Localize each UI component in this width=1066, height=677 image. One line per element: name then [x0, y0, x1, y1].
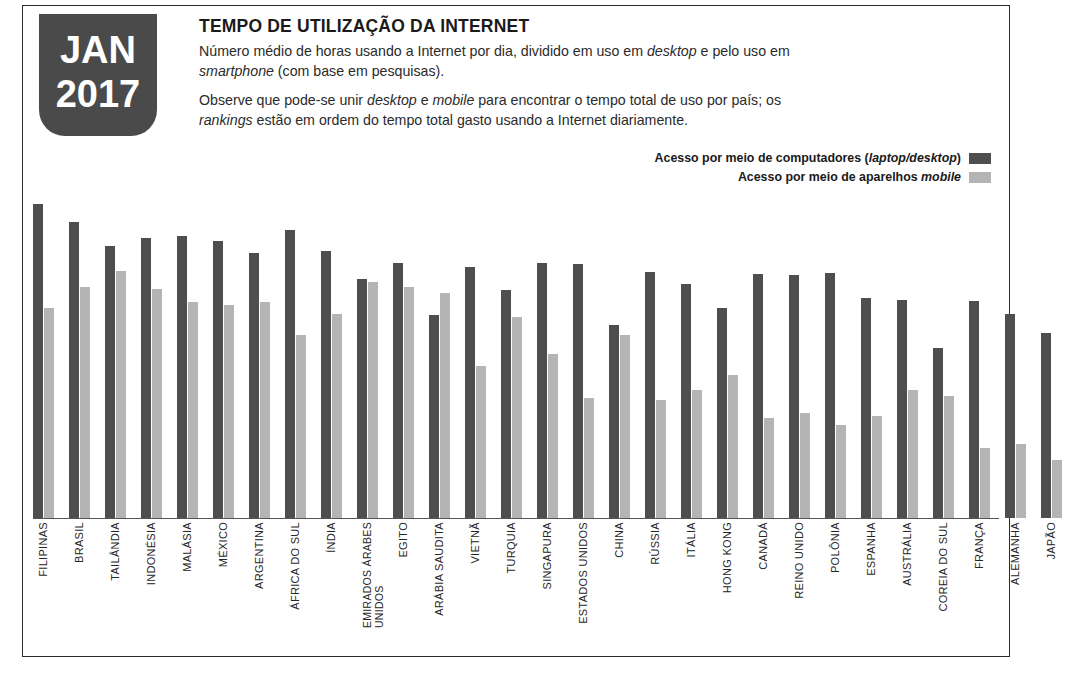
chart-legend: Acesso por meio de computadores (laptop/…	[655, 151, 991, 189]
x-axis-label-cell: RÚSSIA	[645, 520, 681, 650]
x-axis-label: ESPANHA	[865, 522, 877, 576]
bar-mobile	[152, 289, 162, 518]
bar-mobile	[620, 335, 630, 518]
x-axis-label: ITÁLIA	[685, 522, 697, 557]
bar-group	[213, 188, 249, 518]
legend-item-mobile: Acesso por meio de aparelhos mobile	[655, 170, 991, 184]
x-axis-label-cell: FRANÇA	[969, 520, 1005, 650]
bar-mobile	[116, 271, 126, 518]
x-axis-label: FILIPINAS	[37, 522, 49, 577]
bar-desktop	[537, 263, 547, 518]
x-axis-label: MÉXICO	[217, 522, 229, 567]
date-badge: JAN 2017	[39, 14, 157, 136]
x-axis-label: INDONÉSIA	[145, 522, 157, 585]
bar-mobile	[1052, 460, 1062, 518]
bar-mobile	[764, 418, 774, 518]
bar-group	[357, 188, 393, 518]
bar-mobile	[944, 396, 954, 518]
bar-mobile	[872, 416, 882, 518]
bar-group	[825, 188, 861, 518]
x-axis-label-cell: TAILÂNDIA	[105, 520, 141, 650]
bar-desktop	[573, 264, 583, 518]
bar-desktop	[285, 230, 295, 518]
bar-group	[33, 188, 69, 518]
bar-desktop	[897, 300, 907, 518]
x-axis-label: ÍNDIA	[325, 522, 337, 553]
bar-desktop	[33, 204, 43, 518]
x-axis-label: ARÁBIA SAUDITA	[433, 522, 445, 616]
x-axis-label: EMIRADOS ÁRABES UNIDOS	[361, 522, 385, 628]
x-axis-label-cell: ARGENTINA	[249, 520, 285, 650]
x-axis-labels: FILIPINASBRASILTAILÂNDIAINDONÉSIAMALÁSIA…	[33, 520, 999, 650]
description-paragraph-2: Observe que pode-se unir desktop e mobil…	[199, 91, 799, 130]
bar-mobile	[368, 282, 378, 518]
bar-group	[501, 188, 537, 518]
x-axis-label: SINGAPURA	[541, 522, 553, 590]
page-title: TEMPO DE UTILIZAÇÃO DA INTERNET	[199, 16, 989, 37]
x-axis-label-cell: HONG KONG	[717, 520, 753, 650]
x-axis-label: VIETNÃ	[469, 522, 481, 564]
bar-mobile	[908, 390, 918, 518]
bar-desktop	[753, 274, 763, 518]
bar-group	[321, 188, 357, 518]
bar-group-container	[33, 188, 999, 518]
x-axis-label-cell: CHINA	[609, 520, 645, 650]
x-axis-label-cell: JAPÃO	[1041, 520, 1066, 650]
bar-desktop	[429, 315, 439, 518]
legend-item-desktop: Acesso por meio de computadores (laptop/…	[655, 151, 991, 165]
bar-group	[177, 188, 213, 518]
bar-desktop	[717, 308, 727, 518]
x-axis-label-cell: EMIRADOS ÁRABES UNIDOS	[357, 520, 393, 650]
bar-mobile	[692, 390, 702, 518]
bar-mobile	[548, 354, 558, 518]
x-axis-label-cell: POLÔNIA	[825, 520, 861, 650]
bar-mobile	[656, 400, 666, 518]
bar-desktop	[645, 272, 655, 518]
bar-group	[897, 188, 933, 518]
infographic-frame: JAN 2017 TEMPO DE UTILIZAÇÃO DA INTERNET…	[22, 5, 1010, 657]
bar-group	[141, 188, 177, 518]
x-axis-label-cell: INDONÉSIA	[141, 520, 177, 650]
bar-mobile	[800, 413, 810, 518]
bar-desktop	[213, 241, 223, 518]
x-axis-label-cell: AUSTRÁLIA	[897, 520, 933, 650]
bar-group	[861, 188, 897, 518]
legend-swatch-mobile	[969, 172, 991, 183]
description-paragraph-1: Número médio de horas usando a Internet …	[199, 42, 799, 81]
bar-mobile	[44, 308, 54, 518]
bar-group	[789, 188, 825, 518]
bar-mobile	[224, 305, 234, 518]
bar-group	[393, 188, 429, 518]
bar-desktop	[609, 325, 619, 518]
bar-mobile	[332, 314, 342, 518]
bar-desktop	[177, 236, 187, 518]
bar-desktop	[1041, 333, 1051, 518]
bar-group	[969, 188, 1005, 518]
bar-mobile	[476, 366, 486, 518]
bar-group	[645, 188, 681, 518]
x-axis-label: COREIA DO SUL	[937, 522, 949, 611]
bar-mobile	[404, 287, 414, 518]
bar-desktop	[465, 267, 475, 518]
bar-mobile	[296, 335, 306, 518]
x-axis-label-cell: SINGAPURA	[537, 520, 573, 650]
x-axis-label-cell: MÉXICO	[213, 520, 249, 650]
bar-desktop	[969, 301, 979, 518]
bar-group	[429, 188, 465, 518]
x-axis-label: ALEMANHA	[1009, 522, 1021, 585]
x-axis-label-cell: ALEMANHA	[1005, 520, 1041, 650]
bar-group	[933, 188, 969, 518]
badge-year: 2017	[39, 72, 157, 116]
x-axis-label-cell: EGITO	[393, 520, 429, 650]
title-block: TEMPO DE UTILIZAÇÃO DA INTERNET Número m…	[199, 16, 989, 140]
bar-desktop	[825, 273, 835, 518]
bar-desktop	[141, 238, 151, 518]
x-axis-line	[33, 518, 999, 519]
x-axis-label-cell: ESTADOS UNIDOS	[573, 520, 609, 650]
x-axis-label: MALÁSIA	[181, 522, 193, 572]
bar-group	[609, 188, 645, 518]
bar-group	[1005, 188, 1041, 518]
x-axis-label-cell: ÍNDIA	[321, 520, 357, 650]
bar-group	[681, 188, 717, 518]
bar-mobile	[728, 375, 738, 518]
